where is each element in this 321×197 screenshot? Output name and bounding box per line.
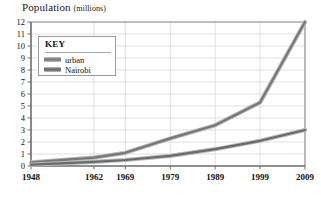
legend: KEY urban Nairobi [38, 36, 116, 76]
x-tick-label: 2009 [296, 172, 315, 182]
y-tick-label: 9 [21, 53, 25, 63]
y-tick-label: 4 [21, 113, 26, 123]
y-tick-label: 1 [21, 149, 25, 159]
y-tick-label: 6 [21, 89, 25, 99]
y-axis-tick-labels: 0123456789101112 [17, 17, 26, 171]
x-tick-label: 1962 [85, 172, 104, 182]
y-tick-label: 0 [21, 161, 25, 171]
y-tick-label: 5 [21, 101, 25, 111]
y-tick-label: 2 [21, 137, 25, 147]
population-line-chart: Population (millions) 0123456789101112 1… [0, 0, 321, 197]
legend-swatch-urban [44, 57, 61, 62]
legend-swatch-nairobi [44, 67, 61, 72]
legend-label-urban: urban [65, 55, 84, 65]
plot-area: 0123456789101112 19481962196919791989199… [0, 0, 321, 197]
y-tick-label: 8 [21, 65, 25, 75]
x-tick-label: 1969 [116, 172, 135, 182]
legend-title: KEY [45, 39, 65, 49]
y-tick-label: 12 [17, 17, 26, 27]
y-tick-label: 10 [17, 41, 26, 51]
x-tick-label: 1979 [161, 172, 180, 182]
legend-divider [45, 52, 111, 53]
x-axis-tick-labels: 1948196219691979198919992009 [22, 172, 315, 182]
y-tick-label: 7 [21, 77, 25, 87]
y-tick-label: 11 [17, 29, 25, 39]
legend-label-nairobi: Nairobi [65, 65, 91, 75]
legend-item-nairobi: Nairobi [44, 64, 91, 75]
x-tick-label: 1948 [22, 172, 41, 182]
y-tick-label: 3 [21, 125, 25, 135]
x-tick-label: 1999 [251, 172, 270, 182]
x-tick-label: 1989 [206, 172, 225, 182]
